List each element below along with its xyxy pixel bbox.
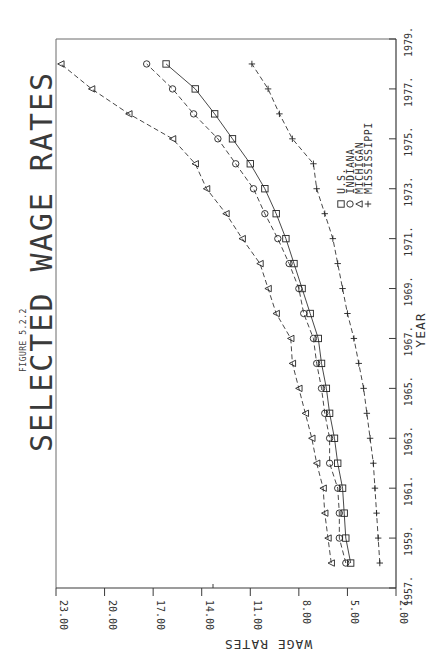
plus-marker-icon bbox=[377, 560, 383, 566]
year-tick-label: 1963. bbox=[403, 426, 414, 456]
figure-number: FIGURE 5.2.2 bbox=[19, 308, 28, 372]
wage-tick-label: 5.00 bbox=[349, 600, 360, 624]
plus-marker-icon bbox=[351, 335, 357, 341]
plus-marker-icon bbox=[265, 86, 271, 92]
year-tick-label: 1969. bbox=[403, 276, 414, 306]
year-tick-label: 1979. bbox=[403, 27, 414, 57]
year-tick-label: 1973. bbox=[403, 177, 414, 207]
plus-marker-icon bbox=[344, 310, 350, 316]
legend-label: MISSISSIPPI bbox=[363, 122, 374, 194]
series-line bbox=[147, 64, 346, 563]
year-tick-label: 1957. bbox=[403, 576, 414, 606]
year-tick-label: 1977. bbox=[403, 77, 414, 107]
year-tick-label: 1961. bbox=[403, 476, 414, 506]
x-axis-title: YEAR bbox=[413, 312, 428, 347]
year-tick-label: 1971. bbox=[403, 227, 414, 257]
circle-marker-icon bbox=[143, 61, 149, 67]
wage-tick-label: 14.00 bbox=[204, 600, 215, 630]
plus-marker-icon bbox=[364, 410, 370, 416]
plus-marker-icon bbox=[249, 61, 255, 67]
triangle-marker-icon bbox=[58, 61, 64, 67]
plus-marker-icon bbox=[356, 360, 362, 366]
plus-marker-icon bbox=[322, 210, 328, 216]
series-michigan bbox=[58, 61, 335, 566]
plus-marker-icon bbox=[367, 435, 373, 441]
wage-tick-label: 23.00 bbox=[58, 600, 69, 630]
plus-marker-icon bbox=[276, 111, 282, 117]
plus-marker-icon bbox=[335, 260, 341, 266]
wage-tick-label: 11.00 bbox=[252, 600, 263, 630]
title-block: SELECTED WAGE RATES FIGURE 5.2.2 bbox=[19, 71, 59, 452]
wage-rates-chart: SELECTED WAGE RATES FIGURE 5.2.2 2.005.0… bbox=[0, 0, 445, 671]
plus-marker-icon bbox=[360, 385, 366, 391]
y-axis-title: WAGE RATES bbox=[224, 637, 312, 652]
plus-marker-icon bbox=[372, 485, 378, 491]
circle-marker-icon bbox=[275, 235, 281, 241]
plus-marker-icon bbox=[313, 186, 319, 192]
year-axis-ticks: 1957.1959.1961.1963.1965.1967.1969.1971.… bbox=[389, 27, 414, 606]
circle-marker-icon bbox=[169, 86, 175, 92]
wage-tick-label: 20.00 bbox=[107, 600, 118, 630]
circle-marker-icon bbox=[250, 186, 256, 192]
wage-tick-label: 8.00 bbox=[301, 600, 312, 624]
year-tick-label: 1975. bbox=[403, 127, 414, 157]
triangle-marker-icon bbox=[257, 260, 263, 266]
series-layer bbox=[58, 61, 383, 566]
circle-marker-icon bbox=[190, 111, 196, 117]
series-line bbox=[252, 64, 380, 563]
legend: U.S.INDIANAMICHIGANMISSISSIPPI bbox=[336, 122, 374, 207]
legend-plus-icon bbox=[365, 201, 371, 207]
plus-marker-icon bbox=[330, 235, 336, 241]
legend-item: MISSISSIPPI bbox=[363, 122, 374, 207]
legend-square-icon bbox=[338, 201, 344, 207]
triangle-marker-icon bbox=[313, 460, 319, 466]
plus-marker-icon bbox=[370, 460, 376, 466]
year-tick-label: 1959. bbox=[403, 526, 414, 556]
plus-marker-icon bbox=[339, 285, 345, 291]
plus-marker-icon bbox=[373, 510, 379, 516]
year-tick-label: 1965. bbox=[403, 376, 414, 406]
legend-circle-icon bbox=[347, 201, 353, 207]
legend-triangle-icon bbox=[356, 201, 362, 207]
chart-title: SELECTED WAGE RATES bbox=[24, 71, 59, 452]
plus-marker-icon bbox=[375, 535, 381, 541]
wage-rate-axis-ticks: 2.005.008.0011.0014.0017.0020.0023.00 bbox=[56, 588, 409, 630]
triangle-marker-icon bbox=[169, 136, 175, 142]
wage-tick-label: 17.00 bbox=[155, 600, 166, 630]
